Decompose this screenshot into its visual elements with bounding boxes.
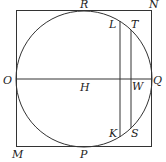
label-n: N (148, 0, 159, 11)
label-h: H (79, 81, 90, 94)
label-t: T (131, 18, 140, 31)
label-w: W (132, 80, 145, 93)
label-k: K (108, 127, 118, 140)
label-s: S (131, 127, 139, 140)
label-l: L (108, 18, 116, 31)
label-r: R (79, 0, 88, 11)
label-o: O (3, 74, 12, 87)
label-q: Q (153, 74, 162, 87)
label-p: P (79, 148, 88, 161)
label-m: M (11, 148, 24, 161)
geometry-diagram: R N L T O H W Q K S M P (0, 0, 166, 162)
